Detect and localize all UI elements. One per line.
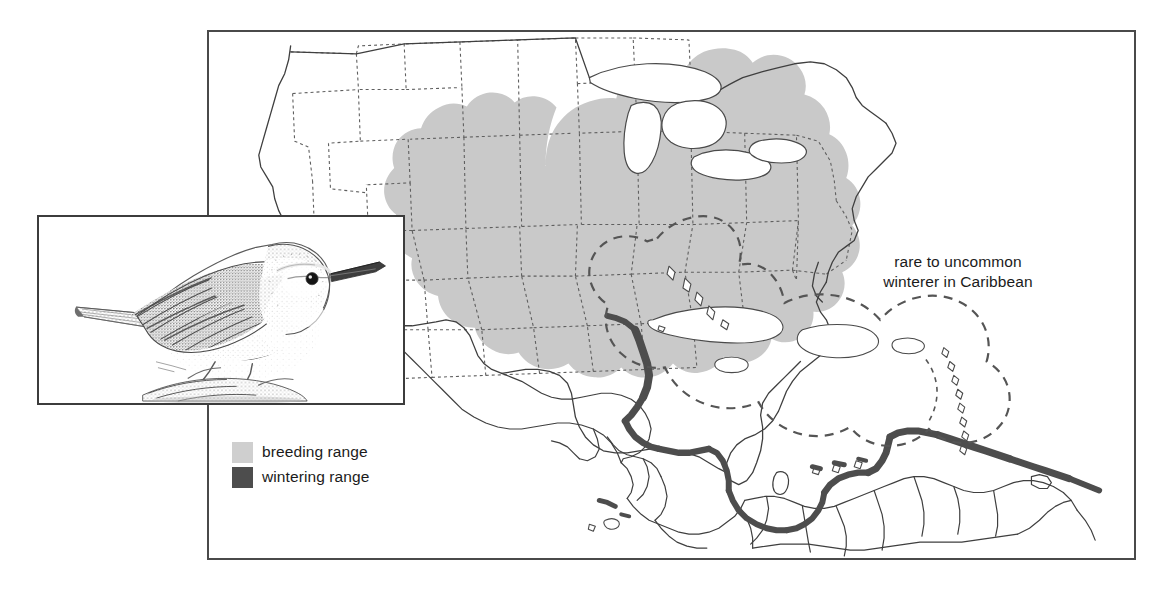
legend-swatch-breeding (232, 442, 253, 463)
legend-item-breeding: breeding range (232, 440, 462, 464)
bird-illustration (39, 217, 403, 403)
legend-item-wintering: wintering range (232, 465, 462, 489)
bird-eye (306, 273, 318, 285)
map-legend: breeding range wintering range (232, 440, 462, 490)
legend-label-wintering: wintering range (262, 469, 369, 485)
caribbean-annotation: rare to uncommon winterer in Caribbean (833, 252, 1083, 292)
legend-label-breeding: breeding range (262, 444, 368, 460)
legend-swatch-wintering (232, 467, 253, 488)
bird-illustration-inset (37, 215, 405, 405)
